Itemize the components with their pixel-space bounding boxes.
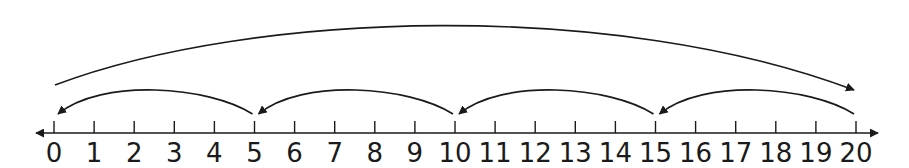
tick-label: 8 — [367, 139, 384, 167]
tick-label: 16 — [679, 139, 712, 167]
jump-arrow-20-to-15 — [660, 90, 855, 114]
tick-label: 12 — [519, 139, 552, 167]
tick-label: 13 — [559, 139, 592, 167]
tick-label: 20 — [839, 139, 872, 167]
tick-label: 6 — [286, 139, 303, 167]
jump-arrow-15-to-10 — [459, 90, 654, 114]
jump-arrow-0-to-20 — [55, 26, 854, 90]
tick-label: 11 — [479, 139, 512, 167]
tick-label: 14 — [599, 139, 632, 167]
tick-label: 18 — [759, 139, 792, 167]
tick-label: 19 — [799, 139, 832, 167]
tick-label: 10 — [438, 139, 471, 167]
tick-label: 5 — [246, 139, 263, 167]
tick-label: 9 — [407, 139, 424, 167]
jump-arrow-5-to-0 — [58, 90, 253, 114]
jump-arrow-10-to-5 — [259, 90, 454, 114]
tick-label: 15 — [639, 139, 672, 167]
jump-arrows — [55, 26, 854, 114]
tick-label: 4 — [206, 139, 223, 167]
tick-label: 0 — [46, 139, 63, 167]
tick-label: 7 — [326, 139, 343, 167]
tick-label: 3 — [166, 139, 183, 167]
tick-label: 2 — [126, 139, 143, 167]
tick-label: 17 — [719, 139, 752, 167]
tick-label: 1 — [86, 139, 103, 167]
tick-marks — [54, 121, 856, 133]
